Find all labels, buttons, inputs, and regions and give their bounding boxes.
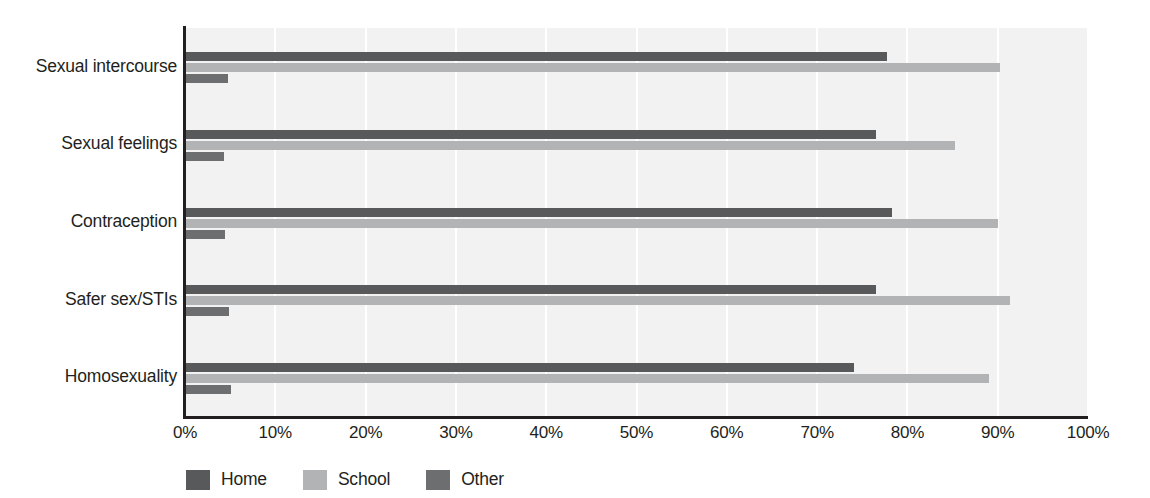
x-tick-20pct: 20% xyxy=(349,424,382,441)
x-tick-70pct: 70% xyxy=(800,424,833,441)
x-tick-40pct: 40% xyxy=(529,424,562,441)
legend-item-other[interactable]: Other xyxy=(426,470,504,490)
x-tick-80pct: 80% xyxy=(891,424,924,441)
chart-legend: HomeSchoolOther xyxy=(186,467,540,493)
bar-school-homosexuality xyxy=(185,374,989,383)
x-tick-30pct: 30% xyxy=(439,424,472,441)
x-axis-line xyxy=(183,416,1088,419)
legend-label-school: School xyxy=(338,471,390,489)
bar-home-contraception xyxy=(185,208,892,217)
legend-item-school[interactable]: School xyxy=(303,470,390,490)
bar-other-safer-sex-stis xyxy=(185,307,229,316)
bar-other-contraception xyxy=(185,230,225,239)
bar-home-sexual-intercourse xyxy=(185,52,887,61)
category-label-contraception: Contraception xyxy=(0,213,177,231)
category-label-safer-sex-stis: Safer sex/STIs xyxy=(0,291,177,309)
bar-school-sexual-intercourse xyxy=(185,63,1000,72)
x-tick-0pct: 0% xyxy=(173,424,197,441)
x-tick-10pct: 10% xyxy=(259,424,292,441)
category-label-homosexuality: Homosexuality xyxy=(0,368,177,386)
bar-school-safer-sex-stis xyxy=(185,296,1010,305)
bar-other-sexual-feelings xyxy=(185,152,224,161)
bar-other-homosexuality xyxy=(185,385,231,394)
category-label-sexual-feelings: Sexual feelings xyxy=(0,135,177,153)
bar-school-sexual-feelings xyxy=(185,141,955,150)
legend-item-home[interactable]: Home xyxy=(186,470,267,490)
bar-home-homosexuality xyxy=(185,363,854,372)
plot-area xyxy=(185,28,1088,416)
legend-swatch-school-icon xyxy=(303,470,327,490)
category-axis-labels: Sexual intercourseSexual feelingsContrac… xyxy=(0,28,183,416)
legend-swatch-home-icon xyxy=(186,470,210,490)
legend-label-other: Other xyxy=(461,471,504,489)
bar-school-contraception xyxy=(185,219,998,228)
gridline-100% xyxy=(1087,28,1088,416)
horizontal-grouped-bar-chart: Sexual intercourseSexual feelingsContrac… xyxy=(0,0,1150,498)
category-label-sexual-intercourse: Sexual intercourse xyxy=(0,58,177,76)
x-axis-tick-labels: 0%10%20%30%40%50%60%70%80%90%100% xyxy=(0,424,1150,448)
x-tick-60pct: 60% xyxy=(710,424,743,441)
legend-label-home: Home xyxy=(221,471,267,489)
bar-other-sexual-intercourse xyxy=(185,74,228,83)
x-tick-50pct: 50% xyxy=(620,424,653,441)
legend-swatch-other-icon xyxy=(426,470,450,490)
x-tick-90pct: 90% xyxy=(981,424,1014,441)
bar-home-safer-sex-stis xyxy=(185,285,876,294)
bar-home-sexual-feelings xyxy=(185,130,876,139)
y-axis-line xyxy=(183,26,186,418)
x-tick-100pct: 100% xyxy=(1067,424,1110,441)
